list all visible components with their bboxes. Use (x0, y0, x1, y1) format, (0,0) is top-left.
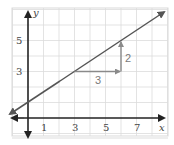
x-tick-5: 5 (103, 122, 109, 133)
run-label: 3 (95, 74, 101, 86)
x-tick-1: 1 (41, 122, 47, 133)
y-tick-3: 3 (16, 66, 22, 77)
x-tick-3: 3 (72, 122, 78, 133)
y-tick-5: 5 (16, 35, 22, 46)
grid-shadow (12, 136, 168, 139)
y-axis-label: y (32, 7, 39, 18)
rise-label: 2 (125, 52, 131, 64)
coordinate-graph: 3 2 y x 1 3 5 7 3 5 (0, 0, 174, 145)
x-tick-7: 7 (134, 122, 140, 133)
x-axis-label: x (159, 122, 165, 133)
